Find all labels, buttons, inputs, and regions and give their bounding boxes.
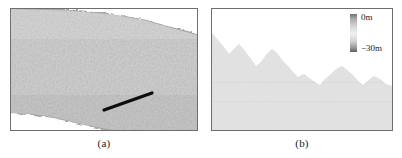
figure-container: 0m −30m (a) (b) [0,0,402,158]
panel-a-canvas [11,9,197,130]
colorbar-gradient-bar [350,14,357,52]
panel-b: 0m −30m [211,8,393,131]
colorbar-label-max: 0m [361,12,373,22]
panel-a-caption: (a) [10,136,198,150]
panel-a [10,8,198,131]
panel-b-caption: (b) [211,136,393,150]
colorbar-label-min: −30m [361,43,382,53]
depth-colorbar: 0m −30m [350,12,393,56]
